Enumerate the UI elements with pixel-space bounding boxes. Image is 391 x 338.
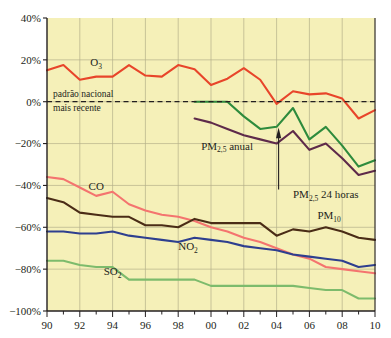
reference-note-line2: mais recente xyxy=(53,103,101,113)
x-tick-label: 98 xyxy=(173,319,185,331)
reference-note-line1: padrão nacional xyxy=(53,89,114,99)
x-tick-label: 08 xyxy=(337,319,349,331)
x-tick-label: 96 xyxy=(140,319,152,331)
y-tick-label: 40% xyxy=(21,12,41,24)
y-tick-label: −80% xyxy=(15,263,41,275)
y-tick-label: −20% xyxy=(15,137,41,149)
x-tick-label: 94 xyxy=(107,319,119,331)
x-tick-label: 04 xyxy=(271,319,283,331)
series-label-co: CO xyxy=(89,180,104,192)
emissions-trend-chart: 40%20%0%−20%−40%−60%−80%−100%90929496980… xyxy=(0,0,391,338)
x-tick-label: 10 xyxy=(370,319,382,331)
x-tick-label: 06 xyxy=(304,319,316,331)
x-tick-label: 92 xyxy=(74,319,85,331)
chart-canvas: 40%20%0%−20%−40%−60%−80%−100%90929496980… xyxy=(0,0,391,338)
y-tick-label: 20% xyxy=(21,54,41,66)
y-tick-label: −100% xyxy=(9,305,41,317)
x-tick-label: 90 xyxy=(42,319,54,331)
x-tick-label: 02 xyxy=(238,319,249,331)
y-tick-label: −60% xyxy=(15,221,41,233)
x-tick-label: 00 xyxy=(206,319,218,331)
y-tick-label: 0% xyxy=(26,96,41,108)
y-tick-label: −40% xyxy=(15,179,41,191)
